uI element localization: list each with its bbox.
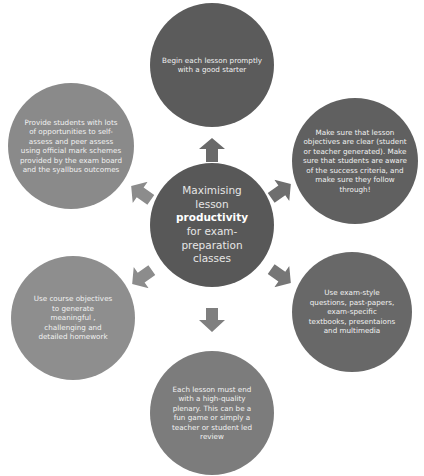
node-bottom-text: Each lesson must end with a high-quality…	[150, 385, 274, 442]
node-top-right-text: Make sure that lesson objectives are cle…	[292, 128, 418, 195]
center-bold-word: productivity	[176, 211, 248, 223]
node-bottom-left-text: Use course objectives to generate meanin…	[11, 294, 135, 342]
arrow-down-icon	[199, 308, 225, 332]
center-line2: for exam-preparation classes	[181, 225, 242, 264]
center-node-text: Maximising lesson productivity for exam-…	[150, 184, 274, 266]
node-top-text: Begin each lesson promptly with a good s…	[150, 56, 274, 75]
node-top: Begin each lesson promptly with a good s…	[150, 3, 274, 127]
node-bottom: Each lesson must end with a high-quality…	[150, 351, 274, 475]
center-node: Maximising lesson productivity for exam-…	[150, 163, 274, 287]
node-top-right: Make sure that lesson objectives are cle…	[292, 98, 418, 224]
arrow-up-icon	[199, 138, 225, 162]
node-bottom-right-text: Use exam-style questions, past-papers, e…	[292, 288, 412, 336]
center-line1: Maximising lesson	[182, 184, 241, 210]
node-bottom-left: Use course objectives to generate meanin…	[11, 256, 135, 380]
node-bottom-right: Use exam-style questions, past-papers, e…	[292, 252, 412, 372]
node-top-left-text: Provide students with lots of opportunit…	[8, 118, 134, 175]
node-top-left: Provide students with lots of opportunit…	[8, 83, 134, 209]
